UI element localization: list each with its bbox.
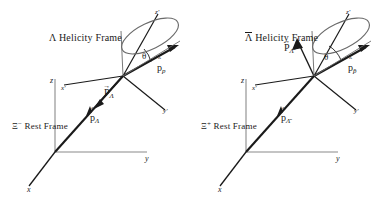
x-axis-line <box>29 152 55 186</box>
hat-accent-icon: ˆ <box>158 57 161 66</box>
hat-accent-icon: ˆ <box>91 107 94 116</box>
antilambda-symbol: Λ <box>245 33 252 43</box>
z-axis-label-right: z <box>241 77 244 85</box>
lambda-polarization-label-left: →PΛ <box>104 88 114 100</box>
cone-slant-right <box>123 41 180 76</box>
antilambda-pol-subscript-right: Λ̄ <box>290 47 294 55</box>
panel-lambda-helicity-frame: Λ Helicity Frame Ξ− Rest Frame z y x z' … <box>0 0 191 199</box>
P-arrow-glyph-right: →P <box>284 43 290 53</box>
cone-slant-right <box>314 41 371 76</box>
p-hat-glyph-left: ˆp <box>157 63 162 73</box>
x-prime-axis-label-left: x' <box>61 85 66 92</box>
frame-title-right: Λ Helicity Frame <box>245 33 318 43</box>
physics-helicity-frame-figure: Λ Helicity Frame Ξ− Rest Frame z y x z' … <box>0 0 382 199</box>
p-hat-lambda-glyph-left: ˆp <box>90 113 95 123</box>
p-hat-glyph-right: ˆp <box>348 63 353 73</box>
y-prime-axis-label-right: y' <box>354 108 359 115</box>
arrow-accent-icon: → <box>283 38 290 45</box>
x-prime-axis-line <box>64 76 123 85</box>
x-prime-axis-label-right: x' <box>252 85 257 92</box>
z-prime-axis-label-right: z' <box>346 9 350 16</box>
rest-frame-label-left: Ξ− Rest Frame <box>12 121 68 131</box>
antilambda-momentum-label-right: ˆpΛ̄ <box>281 113 290 125</box>
P-arrow-glyph-left: →P <box>104 88 110 98</box>
rest-frame-suffix-right: Rest Frame <box>211 121 257 131</box>
antilambda-polarization-label-right: →PΛ̄ <box>284 43 294 55</box>
x-axis-label-right: x <box>218 186 222 194</box>
lambda-momentum-label-left: ˆpΛ <box>90 113 99 125</box>
y-prime-axis-line <box>314 76 356 110</box>
y-prime-axis-label-left: y' <box>163 108 168 115</box>
y-axis-label-left: y <box>145 155 149 163</box>
y-prime-axis-line <box>123 76 165 110</box>
antilambda-mom-subscript-right: Λ̄ <box>286 117 290 125</box>
proton-momentum-label-left: ˆpp <box>157 63 166 75</box>
p-hat-antilambda-glyph-right: ˆp <box>281 113 286 123</box>
lambda-mom-subscript-left: Λ <box>95 117 99 125</box>
rest-frame-label-right: Ξ+ Rest Frame <box>201 121 257 131</box>
y-axis-label-right: y <box>336 155 340 163</box>
precession-cone-ellipse <box>116 11 183 62</box>
hat-accent-icon: ˆ <box>349 57 352 66</box>
x-axis-label-left: x <box>27 186 31 194</box>
theta-label-right: θ <box>324 53 328 62</box>
theta-label-left: θ <box>142 52 146 61</box>
frame-title-left: Λ Helicity Frame <box>49 33 122 43</box>
x-axis-line <box>220 152 246 186</box>
z-axis-label-left: z <box>50 77 53 85</box>
lambda-polarization-arrowhead <box>94 99 104 109</box>
hat-accent-icon: ˆ <box>282 107 285 116</box>
x-prime-axis-line <box>255 76 314 85</box>
antiproton-momentum-label-right: ˆpp̄ <box>348 63 357 75</box>
lambda-pol-subscript-left: Λ <box>110 92 114 100</box>
proton-subscript-left: p <box>162 67 166 75</box>
rest-frame-suffix-left: Rest Frame <box>22 121 68 131</box>
antiproton-subscript-right: p̄ <box>353 67 357 75</box>
diagram-left <box>0 0 191 199</box>
z-prime-axis-label-left: z' <box>155 9 159 16</box>
arrow-accent-icon: → <box>103 83 110 90</box>
panel-antilambda-helicity-frame: Λ Helicity Frame Ξ+ Rest Frame z y x z' … <box>191 0 382 199</box>
diagram-right <box>191 0 382 199</box>
